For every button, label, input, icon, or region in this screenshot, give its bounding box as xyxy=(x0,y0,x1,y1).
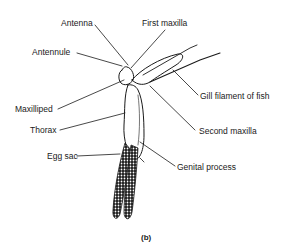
maxilliped-leader xyxy=(58,80,124,109)
label-maxilliped: Maxilliped xyxy=(15,105,53,114)
head-shape xyxy=(119,67,134,85)
label-antenna: Antenna xyxy=(61,19,93,28)
second-maxilla-leader xyxy=(150,86,195,130)
label-second-maxilla: Second maxilla xyxy=(199,127,257,136)
label-gill-filament: Gill filament of fish xyxy=(200,92,269,101)
label-egg-sac: Egg sac xyxy=(47,152,78,161)
antenna-leader xyxy=(95,25,128,65)
thorax-leader xyxy=(60,113,125,130)
egg-sac-leader xyxy=(77,154,120,156)
gill-filament-shape xyxy=(150,53,220,82)
figure-caption: (b) xyxy=(141,234,151,242)
genital-process-leader xyxy=(140,142,175,166)
label-genital-process: Genital process xyxy=(177,163,236,172)
antennule-leader xyxy=(77,53,122,66)
label-antennule: Antennule xyxy=(32,48,70,57)
parasitic-copepod-diagram: Antenna First maxilla Antennule Gill fil… xyxy=(0,0,292,251)
gill-filament-leader xyxy=(173,70,198,95)
label-first-maxilla: First maxilla xyxy=(142,19,187,28)
first-maxilla-leader xyxy=(131,30,165,68)
label-thorax: Thorax xyxy=(30,126,56,135)
